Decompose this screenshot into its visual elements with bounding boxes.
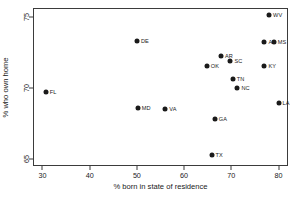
data-point — [271, 40, 276, 45]
scatter-plot-figure: FLDEMDVAOKTXGAARSCTNNCALKYWVMSLA 3040506… — [0, 0, 297, 198]
data-point-label: FL — [50, 89, 57, 95]
data-point-label: VA — [169, 106, 176, 112]
y-tick-label-text: 75 — [22, 13, 31, 21]
data-point-label: MS — [278, 39, 287, 45]
data-point-label: NC — [241, 85, 249, 91]
x-tick-mark — [184, 166, 185, 170]
x-axis-title: % born in state of residence — [33, 182, 288, 191]
data-point-label: DE — [141, 38, 149, 44]
data-point-label: TX — [216, 152, 223, 158]
x-tick-label: 60 — [180, 171, 188, 180]
y-axis-title: % who own home — [0, 8, 12, 166]
data-point — [228, 58, 233, 63]
data-point-label: KY — [268, 63, 276, 69]
data-point — [267, 13, 272, 18]
data-point — [276, 101, 281, 106]
x-tick-mark — [136, 166, 137, 170]
data-point-label: LA — [283, 100, 290, 106]
data-point-label: TN — [237, 76, 245, 82]
data-point — [204, 64, 209, 69]
data-point — [135, 105, 140, 110]
x-tick-label: 40 — [86, 171, 94, 180]
data-point-label: GA — [219, 116, 227, 122]
x-tick-mark — [278, 166, 279, 170]
data-point-label: MD — [142, 105, 151, 111]
data-point — [235, 85, 240, 90]
x-tick-mark — [231, 166, 232, 170]
x-tick-mark — [89, 166, 90, 170]
data-point — [262, 40, 267, 45]
y-tick-label-text: 65 — [22, 155, 31, 163]
data-point — [163, 107, 168, 112]
y-axis-title-text: % who own home — [2, 57, 11, 117]
data-point — [230, 77, 235, 82]
data-point — [262, 64, 267, 69]
data-point — [212, 117, 217, 122]
plot-area — [33, 8, 288, 166]
x-tick-mark — [42, 166, 43, 170]
x-tick-label: 30 — [38, 171, 46, 180]
data-point-label: SC — [234, 58, 242, 64]
data-point — [218, 54, 223, 59]
x-tick-label: 50 — [133, 171, 141, 180]
data-point — [43, 89, 48, 94]
data-point-label: OK — [211, 63, 219, 69]
data-point — [209, 152, 214, 157]
x-tick-label: 80 — [275, 171, 283, 180]
data-point-label: WV — [273, 12, 282, 18]
data-point — [134, 38, 139, 43]
y-tick-label-text: 70 — [22, 84, 31, 92]
x-tick-label: 70 — [227, 171, 235, 180]
